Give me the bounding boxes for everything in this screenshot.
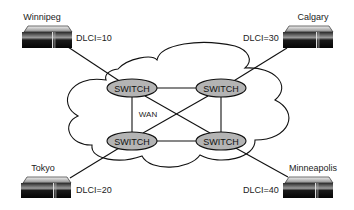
link-winnipeg (68, 47, 124, 84)
wan-cloud (67, 42, 288, 167)
link-calgary (232, 48, 287, 82)
router-tokyo-icon (21, 177, 71, 198)
site-name-minneapolis: Minneapolis (289, 163, 337, 173)
dlci-winnipeg: DLCI=10 (76, 33, 112, 43)
link-tokyo (70, 145, 124, 178)
dlci-calgary: DLCI=30 (243, 33, 279, 43)
switch-tr: SWITCH (196, 79, 246, 97)
router-minneapolis-icon (283, 177, 333, 198)
site-name-tokyo: Tokyo (31, 163, 55, 173)
switch-label: SWITCH (114, 84, 150, 94)
switch-label: SWITCH (203, 137, 239, 147)
switch-label: SWITCH (114, 137, 150, 147)
switch-tl: SWITCH (107, 79, 157, 97)
link-minneapolis (232, 146, 288, 177)
switch-label: SWITCH (203, 84, 239, 94)
router-winnipeg-icon (22, 26, 72, 48)
dlci-minneapolis: DLCI=40 (243, 185, 279, 195)
site-name-calgary: Calgary (297, 12, 328, 22)
dlci-tokyo: DLCI=20 (76, 185, 112, 195)
wan-label: WAN (139, 110, 158, 119)
router-calgary-icon (283, 26, 333, 48)
switch-bl: SWITCH (107, 132, 157, 150)
frame-relay-diagram: SWITCH SWITCH SWITCH SWITCH WAN (0, 0, 354, 210)
site-name-winnipeg: Winnipeg (23, 12, 61, 22)
switch-br: SWITCH (196, 132, 246, 150)
